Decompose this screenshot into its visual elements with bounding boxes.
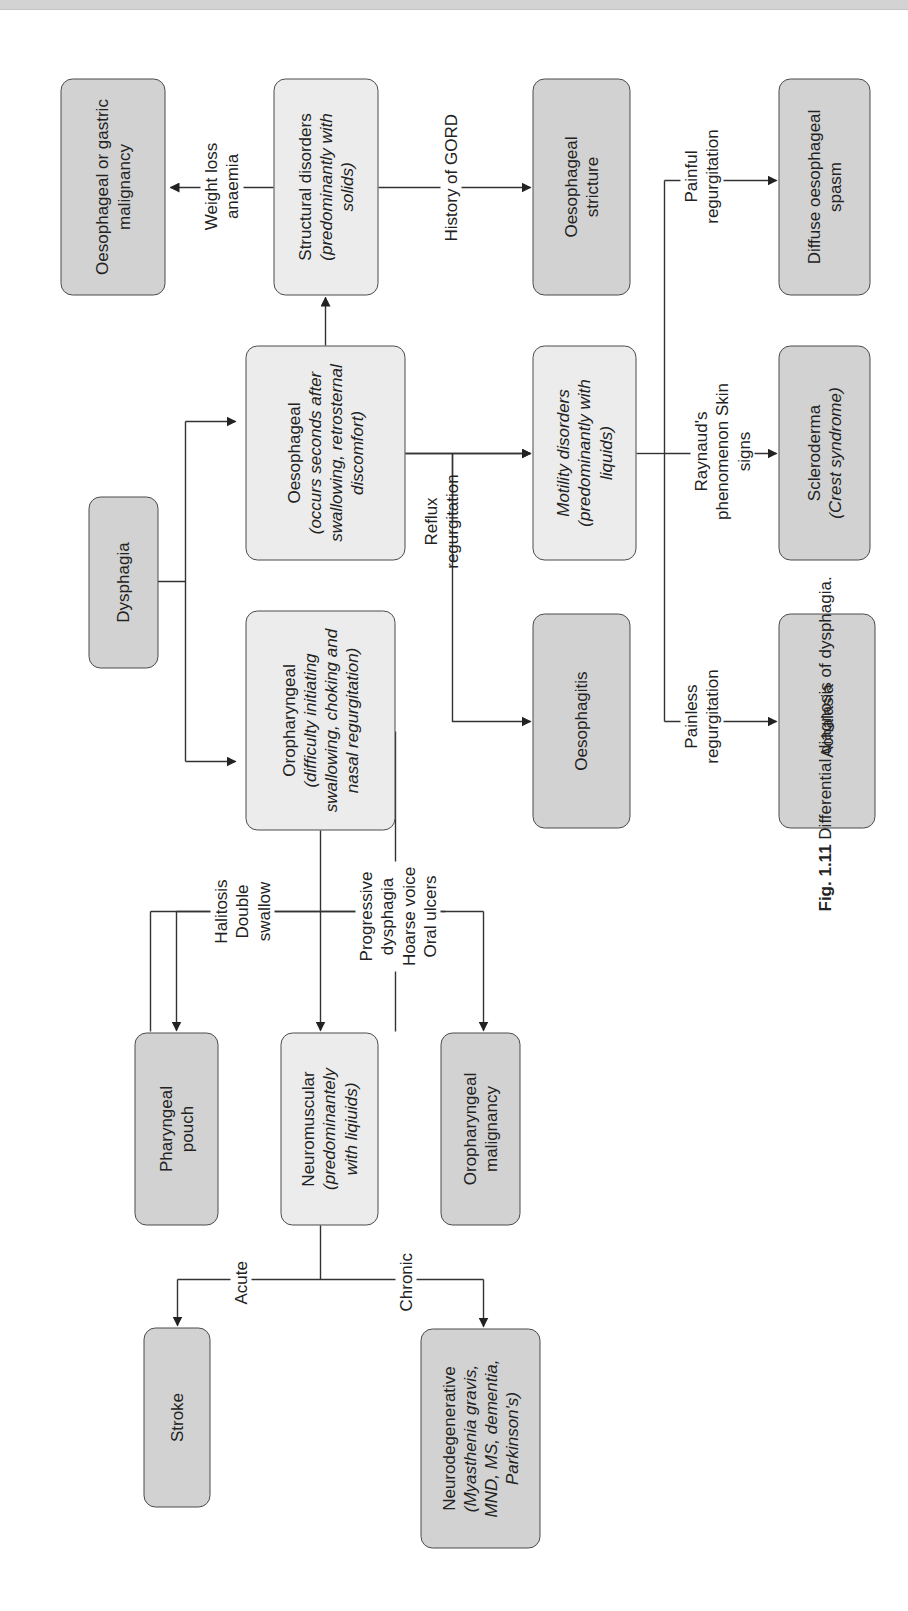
label-reflux: Reflux regurgitation <box>420 471 463 571</box>
label-history-gord: History of GORD <box>440 113 461 241</box>
label-halitosis: Halitosis Double swallow <box>210 871 274 951</box>
caption-number: Fig. 1.11 <box>815 844 834 911</box>
connector-lines-lower <box>0 0 908 1611</box>
label-chronic: Chronic <box>395 1252 416 1311</box>
figure-caption: Fig. 1.11 Differential diagnosis of dysp… <box>815 576 835 911</box>
label-weight-loss: Weight loss anaemia <box>200 131 243 241</box>
label-progressive: Progressive dysphagia Hoarse voice Oral … <box>355 861 440 971</box>
label-raynaud: Raynaud's phenomenon Skin signs <box>690 361 754 541</box>
label-painful: Painful regurgitation <box>680 126 723 226</box>
label-painless: Painless regurgitation <box>680 666 723 766</box>
flowchart-canvas: Dysphagia Oropharyngeal (difficulty init… <box>0 0 908 1611</box>
label-acute: Acute <box>230 1261 251 1304</box>
caption-text: Differential diagnosis of dysphagia. <box>815 576 834 839</box>
